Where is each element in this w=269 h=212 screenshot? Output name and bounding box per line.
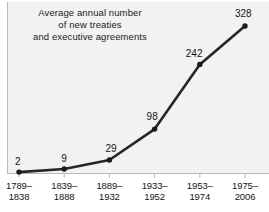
x-axis-tick-label: 1789–1838 [0,180,42,203]
data-point-marker [107,157,112,162]
data-value-label: 2 [15,157,21,167]
tick-label-line-1: 1975– [222,180,268,191]
tick-label-line-2: 2006 [222,191,268,202]
data-value-label: 98 [147,112,158,122]
chart-figure: Average annual number of new treaties an… [0,0,269,212]
tick-label-line-1: 1889– [86,180,132,191]
data-line-treaties [19,26,245,172]
x-axis-tick-label: 1933–1952 [132,180,178,203]
data-point-marker [16,169,21,174]
tick-label-line-1: 1933– [132,180,178,191]
data-value-label: 242 [186,49,203,59]
data-point-marker [61,166,66,171]
tick-label-line-1: 1839– [41,180,87,191]
data-point-marker [197,62,202,67]
x-axis-tick-label: 1975–2006 [222,180,268,203]
tick-label-line-1: 1789– [0,180,42,191]
tick-label-line-2: 1974 [177,191,223,202]
tick-label-line-2: 1838 [0,191,42,202]
tick-label-line-2: 1932 [86,191,132,202]
x-axis-tick-marks [19,173,245,178]
x-axis-tick-label: 1889–1932 [86,180,132,203]
tick-label-line-2: 1888 [41,191,87,202]
x-axis-tick-label: 1953–1974 [177,180,223,203]
data-point-marker [242,23,247,28]
data-value-label: 29 [105,144,116,154]
tick-label-line-2: 1952 [132,191,178,202]
data-value-label: 9 [61,154,67,164]
data-value-label: 328 [235,9,252,19]
data-point-marker [152,126,157,131]
x-axis-tick-label: 1839–1888 [41,180,87,203]
tick-label-line-1: 1953– [177,180,223,191]
data-point-markers [16,23,247,175]
